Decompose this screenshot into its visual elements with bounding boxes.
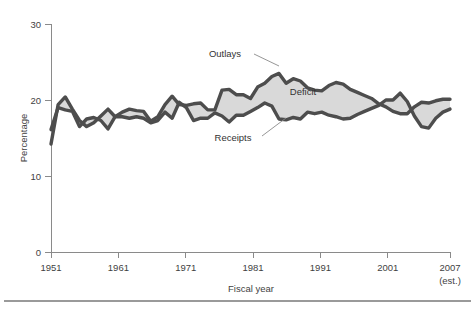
x-tick-label-2007: 2007 [439, 262, 460, 273]
annotation-receipts: Receipts [215, 118, 286, 143]
y-axis-ticks: 30 20 10 0 [30, 19, 51, 258]
budget-area-chart: 30 20 10 0 1951 1961 1971 1981 1991 2001… [0, 0, 475, 311]
annotation-deficit: Deficit [290, 86, 317, 97]
x-axis-ticks: 1951 1961 1971 1981 1991 2001 2007 (est.… [40, 252, 460, 286]
x-tick-label-1961: 1961 [108, 262, 129, 273]
x-tick-label-2001: 2001 [377, 262, 398, 273]
y-axis-title: Percentage [18, 114, 29, 163]
x-tick-label-1991: 1991 [310, 262, 331, 273]
x-tick-label-1981: 1981 [243, 262, 264, 273]
x-axis-title: Fiscal year [228, 283, 274, 294]
chart-figure: 30 20 10 0 1951 1961 1971 1981 1991 2001… [0, 0, 475, 311]
receipts-annotation-label: Receipts [215, 132, 252, 143]
outlays-annotation-label: Outlays [209, 48, 241, 59]
annotation-outlays: Outlays [209, 48, 279, 66]
deficit-annotation-label: Deficit [290, 86, 317, 97]
y-tick-label-30: 30 [30, 19, 41, 30]
x-tick-sublabel-est: (est.) [439, 275, 461, 286]
x-tick-label-1971: 1971 [175, 262, 196, 273]
y-tick-label-0: 0 [36, 247, 41, 258]
y-tick-label-20: 20 [30, 95, 41, 106]
y-tick-label-10: 10 [30, 171, 41, 182]
x-tick-label-1951: 1951 [40, 262, 61, 273]
